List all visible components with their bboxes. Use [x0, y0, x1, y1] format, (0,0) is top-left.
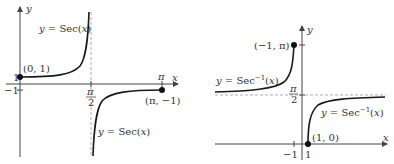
lower-curve-label: y = Sec(x) [97, 126, 150, 137]
left-branch-label: y = Sec−1(x) [215, 74, 279, 86]
tick-y-half-pi-label: π 2 [289, 83, 298, 105]
point-pi-neg1-label: (π, −1) [145, 95, 181, 106]
tick-x-pi-label: π [157, 71, 165, 82]
arcsec-graph: y x y = Sec−1(x) y = Sec−1(x) (−1, π) (1… [215, 24, 389, 160]
left-x-axis-label: x [172, 72, 178, 83]
right-x-axis-label: x [383, 132, 389, 143]
tick-x-neg-one-label: −1 [283, 149, 298, 160]
upper-curve-label: y = Sec(x) [38, 23, 91, 34]
point-neg1-pi [291, 42, 297, 48]
left-y-axis-label: y [25, 3, 32, 14]
tick-y-one-label: 1 [13, 72, 19, 83]
diagram-canvas: y x y = Sec(x) y = Sec(x) (0, 1) (π, −1)… [0, 0, 394, 164]
point-1-0-label: (1, 0) [312, 132, 339, 143]
point-0-1-label: (0, 1) [23, 63, 50, 74]
tick-x-half-pi-label: π 2 [86, 86, 96, 108]
svg-text:2: 2 [88, 97, 94, 108]
tick-y-neg-one-label: −1 [4, 85, 19, 96]
svg-text:π: π [86, 86, 94, 97]
tick-x-one-label: 1 [305, 149, 311, 160]
svg-text:2: 2 [291, 94, 297, 105]
point-1-0 [305, 141, 311, 147]
point-neg1-pi-label: (−1, π) [254, 40, 290, 51]
svg-text:π: π [289, 83, 297, 94]
right-y-axis-label: y [306, 24, 313, 35]
point-pi-neg1 [159, 87, 165, 93]
sec-graph: y x y = Sec(x) y = Sec(x) (0, 1) (π, −1)… [4, 3, 181, 157]
right-branch-label: y = Sec−1(x) [320, 106, 384, 118]
